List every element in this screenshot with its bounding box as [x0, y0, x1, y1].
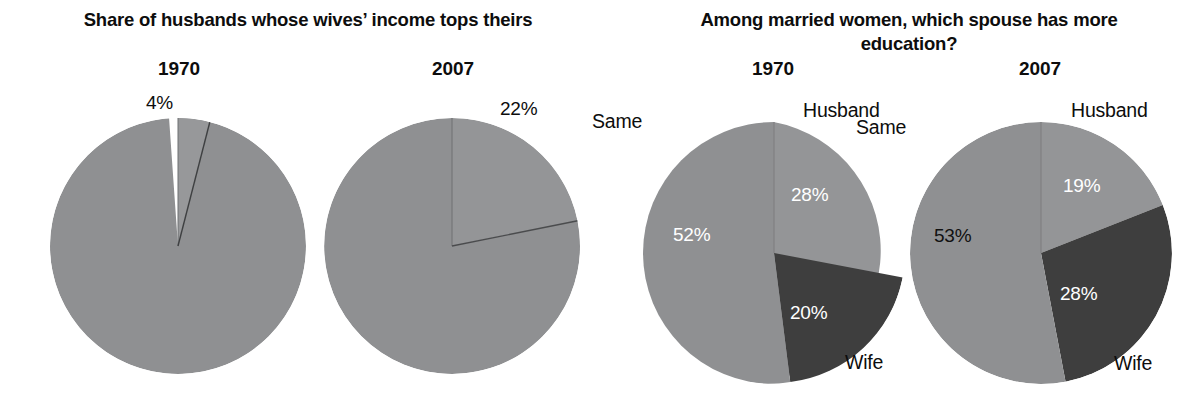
pie-body: [324, 118, 580, 374]
pie-label-income-1970-value: 4%: [146, 92, 173, 114]
pie-slice-same: [643, 122, 790, 384]
pie-chart-education-2007[interactable]: Same Husband Wife 53% 19% 28%: [910, 122, 1172, 384]
pie-label-education-2007-wife: 28%: [1060, 283, 1097, 305]
pie-callout-education-1970-same: Same: [592, 110, 642, 133]
pie-body: [910, 122, 1172, 384]
pie-chart-education-1970[interactable]: Same Husband Wife 52% 28% 20%: [643, 122, 905, 384]
pie-label-income-2007-value: 22%: [500, 98, 537, 120]
income-panel-title: Share of husbands whose wives’ income to…: [0, 8, 616, 32]
pie-label-education-1970-wife: 20%: [790, 302, 827, 324]
pie-callout-education-2007-same: Same: [856, 116, 906, 139]
education-panel-title: Among married women, which spouse has mo…: [616, 8, 1202, 56]
income-1970-year-label: 1970: [104, 58, 254, 80]
pie-chart-income-2007[interactable]: 22%: [324, 118, 580, 374]
pie-label-education-2007-husband: 19%: [1063, 175, 1100, 197]
education-2007-year-label: 2007: [965, 58, 1115, 80]
education-panel: Among married women, which spouse has mo…: [616, 0, 1202, 404]
income-panel: Share of husbands whose wives’ income to…: [0, 0, 616, 404]
pie-body: [50, 118, 306, 374]
income-2007-year-label: 2007: [378, 58, 528, 80]
pie-callout-education-2007-wife: Wife: [1114, 352, 1152, 375]
pie-label-education-1970-same: 52%: [673, 224, 710, 246]
pie-label-education-2007-same: 53%: [934, 225, 971, 247]
education-1970-year-label: 1970: [698, 58, 848, 80]
pie-chart-income-1970[interactable]: 4%: [50, 118, 306, 374]
pie-callout-education-1970-wife: Wife: [845, 351, 883, 374]
pie-label-education-1970-husband: 28%: [791, 184, 828, 206]
pie-body: [643, 122, 905, 384]
pie-callout-education-2007-husband: Husband: [1071, 99, 1148, 122]
